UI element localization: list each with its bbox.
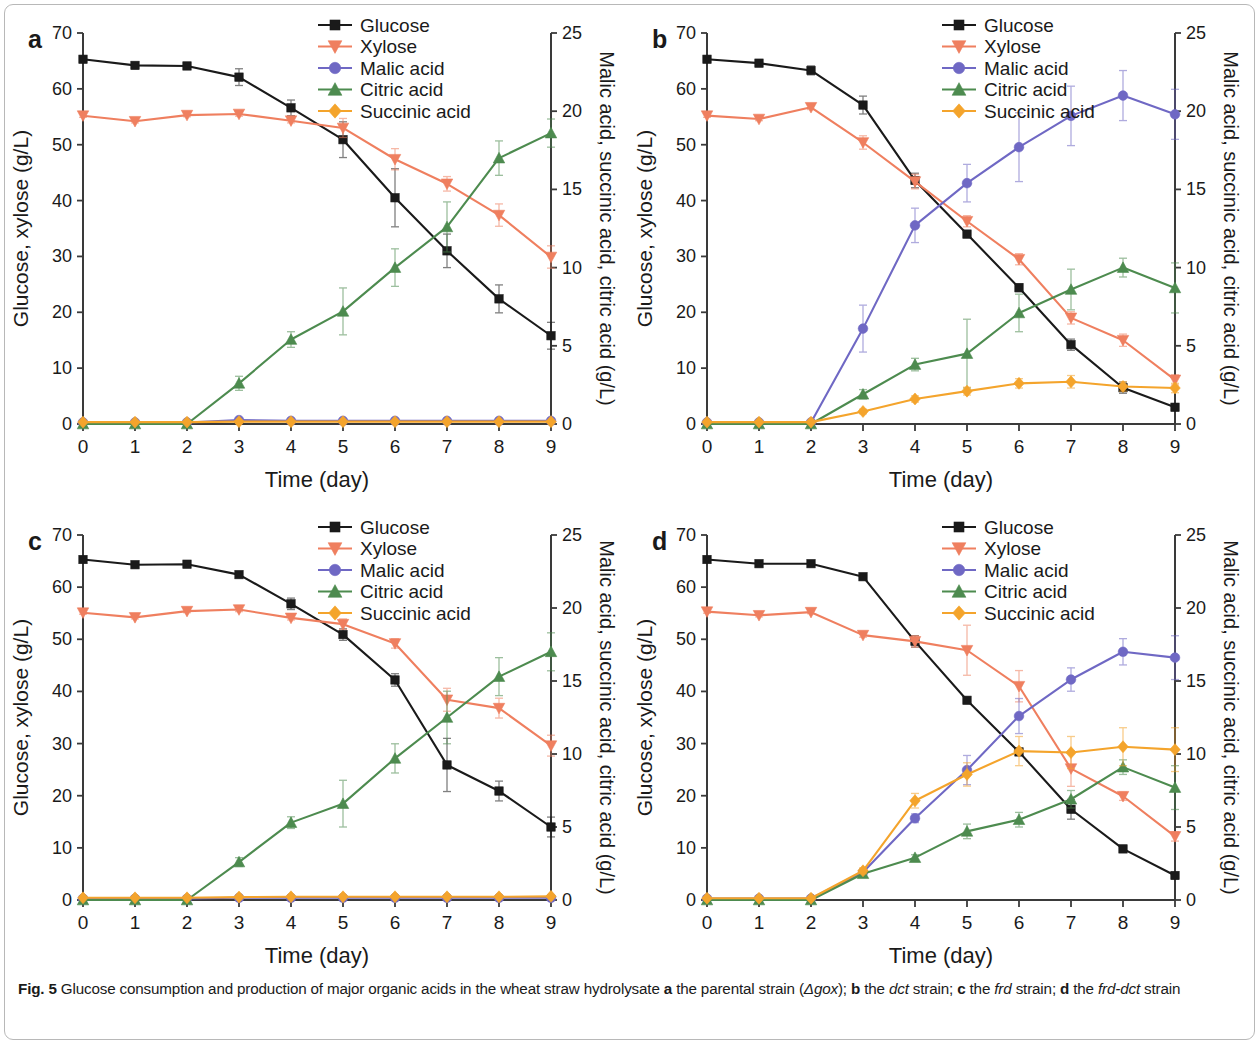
- legend-item-malic[interactable]: Malic acid: [942, 560, 1068, 581]
- y-axis-tick-label-right: 5: [562, 336, 572, 356]
- series-citric-acid: [77, 633, 557, 905]
- x-axis-tick-label: 9: [546, 912, 557, 933]
- x-axis-tick-label: 1: [754, 912, 765, 933]
- legend-item-malic[interactable]: Malic acid: [942, 58, 1068, 79]
- marker-circle: [962, 178, 972, 188]
- x-axis-label: Time (day): [889, 467, 993, 492]
- y-axis-tick-label-left: 30: [52, 246, 72, 266]
- x-axis-tick-label: 9: [546, 436, 557, 457]
- series-glucose: [79, 55, 555, 349]
- caption-frd-dct: frd-dct: [1098, 980, 1140, 997]
- legend-item-glucose[interactable]: Glucose: [318, 517, 430, 538]
- figure-caption: Fig. 5 Glucose consumption and productio…: [18, 978, 1240, 1000]
- legend-item-xylose[interactable]: Xylose: [318, 538, 417, 559]
- legend-item-malic[interactable]: Malic acid: [318, 58, 444, 79]
- legend-item-xylose[interactable]: Xylose: [942, 538, 1041, 559]
- legend-item-citric[interactable]: Citric acid: [942, 581, 1067, 602]
- marker-triangle-down: [1169, 832, 1181, 843]
- y-axis-label-right: Malic acid, succinic acid, citric acid (…: [1220, 51, 1242, 406]
- legend-item-succinic[interactable]: Succinic acid: [942, 101, 1095, 122]
- legend-item-citric[interactable]: Citric acid: [942, 79, 1067, 100]
- legend-item-citric[interactable]: Citric acid: [318, 79, 443, 100]
- marker-diamond: [953, 606, 966, 620]
- x-axis-tick-label: 9: [1170, 912, 1181, 933]
- legend-item-glucose[interactable]: Glucose: [318, 15, 430, 36]
- y-axis-tick-label-left: 50: [676, 135, 696, 155]
- marker-diamond: [1118, 741, 1129, 753]
- marker-triangle-down: [1065, 313, 1077, 324]
- series-malic-acid: [702, 636, 1180, 904]
- marker-triangle-up: [1065, 794, 1077, 805]
- data-line: [707, 747, 1175, 899]
- marker-diamond: [910, 393, 921, 405]
- marker-square: [1067, 340, 1075, 348]
- marker-circle: [1014, 142, 1024, 152]
- legend-item-glucose[interactable]: Glucose: [942, 15, 1054, 36]
- data-line: [707, 652, 1175, 899]
- legend-item-xylose[interactable]: Xylose: [318, 36, 417, 57]
- marker-triangle-up: [493, 671, 505, 682]
- x-axis-tick-label: 5: [962, 436, 973, 457]
- caption-text-7: strain;: [1012, 980, 1060, 997]
- y-axis-tick-label-left: 40: [52, 681, 72, 701]
- y-axis-label-right: Malic acid, succinic acid, citric acid (…: [596, 51, 618, 406]
- x-axis-tick-label: 1: [754, 436, 765, 457]
- panel-d: d01020304050607005101520250123456789Gluc…: [633, 517, 1242, 969]
- data-line: [707, 268, 1175, 424]
- marker-triangle-up: [1065, 284, 1077, 295]
- series-citric-acid: [77, 119, 557, 429]
- figure-container: a01020304050607005101520250123456789Gluc…: [0, 0, 1259, 1044]
- legend-label: Citric acid: [360, 79, 443, 100]
- marker-square: [755, 59, 763, 67]
- series-xylose: [77, 109, 557, 268]
- y-axis-tick-label-right: 20: [1186, 598, 1206, 618]
- data-line: [707, 382, 1175, 422]
- x-axis-tick-label: 3: [858, 912, 869, 933]
- marker-square: [79, 555, 87, 563]
- y-axis-tick-label-left: 30: [52, 734, 72, 754]
- y-axis-tick-label-left: 60: [52, 577, 72, 597]
- y-axis-tick-label-left: 10: [676, 838, 696, 858]
- x-axis-tick-label: 0: [702, 912, 713, 933]
- panel-c: c01020304050607005101520250123456789Gluc…: [9, 517, 618, 969]
- data-line: [83, 133, 551, 424]
- series-xylose: [701, 102, 1181, 385]
- marker-square: [287, 600, 295, 608]
- legend-item-xylose[interactable]: Xylose: [942, 36, 1041, 57]
- caption-text-3: );: [838, 980, 851, 997]
- x-axis-tick-label: 0: [78, 436, 89, 457]
- marker-square: [547, 332, 555, 340]
- legend-label: Malic acid: [984, 58, 1068, 79]
- marker-square: [79, 55, 87, 63]
- y-axis-label-left: Glucose, xylose (g/L): [633, 130, 656, 327]
- y-axis-tick-label-left: 40: [52, 191, 72, 211]
- x-axis-tick-label: 1: [130, 912, 141, 933]
- panel-label-c: c: [28, 527, 42, 555]
- marker-square: [443, 761, 451, 769]
- y-axis-tick-label-right: 5: [562, 817, 572, 837]
- x-axis-tick-label: 1: [130, 436, 141, 457]
- marker-square: [330, 20, 340, 30]
- data-line: [83, 59, 551, 336]
- y-axis-label-right: Malic acid, succinic acid, citric acid (…: [596, 540, 618, 895]
- y-axis-tick-label-left: 50: [676, 629, 696, 649]
- legend-item-citric[interactable]: Citric acid: [318, 581, 443, 602]
- x-axis-tick-label: 5: [338, 436, 349, 457]
- legend-item-succinic[interactable]: Succinic acid: [942, 603, 1095, 624]
- marker-triangle-up: [1013, 307, 1025, 318]
- legend-item-malic[interactable]: Malic acid: [318, 560, 444, 581]
- marker-square: [330, 522, 340, 532]
- y-axis-tick-label-left: 60: [52, 79, 72, 99]
- y-axis-label-right: Malic acid, succinic acid, citric acid (…: [1220, 540, 1242, 895]
- y-axis-tick-label-left: 70: [676, 23, 696, 43]
- y-axis-tick-label-left: 0: [62, 890, 72, 910]
- x-axis-tick-label: 9: [1170, 436, 1181, 457]
- x-axis-tick-label: 8: [1118, 436, 1129, 457]
- panel-label-d: d: [652, 527, 667, 555]
- y-axis-tick-label-right: 0: [1186, 890, 1196, 910]
- marker-square: [703, 55, 711, 63]
- data-line: [83, 652, 551, 900]
- legend-label: Citric acid: [984, 581, 1067, 602]
- legend-item-glucose[interactable]: Glucose: [942, 517, 1054, 538]
- marker-triangle-down: [545, 252, 557, 263]
